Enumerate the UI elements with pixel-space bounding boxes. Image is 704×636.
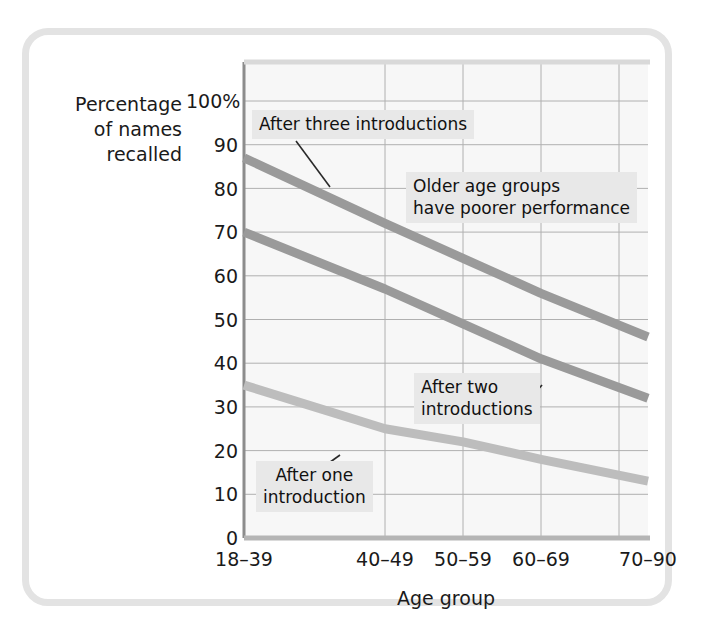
y-tick-label-60: 60 xyxy=(186,265,238,287)
y-tick-label-10: 10 xyxy=(186,483,238,505)
y-tick-label-70: 70 xyxy=(186,221,238,243)
annotation-after-two-introductions: After two introductions xyxy=(414,373,540,424)
y-tick-label-40: 40 xyxy=(186,352,238,374)
chart-figure: Percentage of names recalled Age group 1… xyxy=(0,0,704,636)
y-axis-title: Percentage of names recalled xyxy=(56,92,182,167)
y-tick-label-0: 0 xyxy=(186,527,238,549)
x-axis-title: Age group xyxy=(244,586,648,611)
annotation-after-one-introduction: After one introduction xyxy=(256,461,373,512)
y-tick-label-90: 90 xyxy=(186,134,238,156)
x-tick-label-60-69: 60–69 xyxy=(496,548,586,570)
x-tick-label-18-39: 18–39 xyxy=(199,548,289,570)
y-tick-label-50: 50 xyxy=(186,309,238,331)
annotation-after-three-introductions: After three introductions xyxy=(252,110,474,139)
y-tick-label-30: 30 xyxy=(186,396,238,418)
annotation-older-age-groups: Older age groups have poorer performance xyxy=(406,172,637,223)
y-tick-label-100: 100% xyxy=(186,90,238,112)
y-tick-label-20: 20 xyxy=(186,440,238,462)
y-tick-label-80: 80 xyxy=(186,178,238,200)
x-tick-label-50-59: 50–59 xyxy=(418,548,508,570)
x-tick-label-70-90: 70–90 xyxy=(603,548,693,570)
x-tick-label-40-49: 40–49 xyxy=(340,548,430,570)
